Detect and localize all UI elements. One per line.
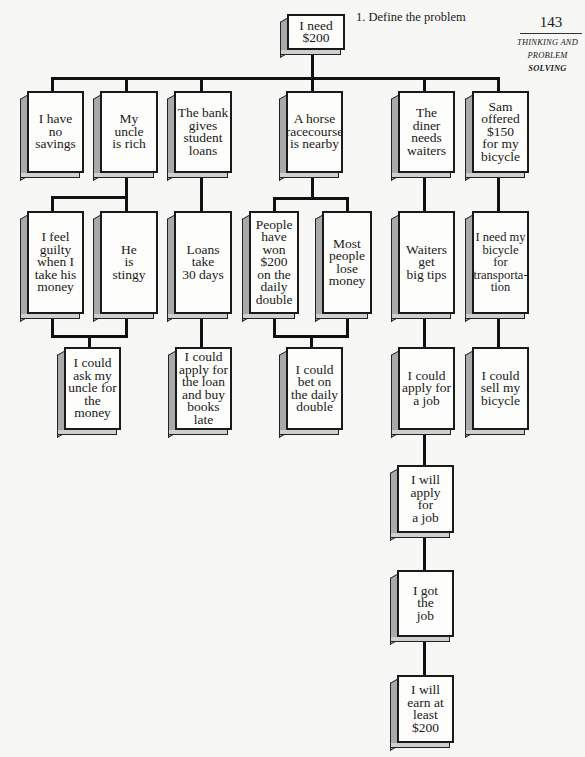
root-node: I need $200 (287, 14, 345, 50)
node-could-apply-job: I could apply for a job (398, 347, 455, 430)
node-bank-student-loans: The bank gives student loans (174, 91, 232, 173)
connector-row1-bar (51, 77, 500, 80)
problem-solving-tree-diagram: 1. Define the problem 143 THINKING AND P… (0, 0, 585, 757)
node-bet-daily-double: I could bet on the daily double (286, 347, 343, 430)
node-most-people-lose: Most people lose money (322, 211, 372, 314)
node-horse-racecourse: A horse racecourse is nearby (286, 91, 343, 173)
root-node-label: I need $200 (290, 20, 342, 45)
node-will-apply-job: I will apply for a job (397, 465, 454, 533)
connector-drop-col6 (497, 77, 500, 91)
connector-horse-drop1 (273, 197, 276, 211)
connector-bank-down (200, 173, 203, 211)
connector-uncle-drop2 (125, 196, 128, 211)
step-caption: 1. Define the problem (356, 10, 466, 25)
node-sam-offered-150: Sam offered $150 for my bicycle (472, 91, 529, 173)
connector-uncle-drop1 (51, 196, 54, 211)
running-head-line1: THINKING AND (510, 36, 585, 49)
running-head: THINKING AND PROBLEM SOLVING (510, 36, 585, 75)
node-feel-guilty: I feel guilty when I take his money (27, 211, 84, 314)
running-head-line2: PROBLEM SOLVING (510, 49, 585, 75)
node-waiters-big-tips: Waiters get big tips (398, 211, 455, 314)
node-no-savings: I have no savings (27, 91, 84, 173)
connector-drop-col2 (125, 77, 128, 91)
connector-chain-2 (423, 533, 426, 570)
node-loans-30-days: Loans take 30 days (174, 211, 232, 314)
node-need-bicycle-transport: I need my bicycle for transporta- tion (472, 211, 529, 314)
connector-chain-3 (423, 637, 426, 675)
connector-drop-col3 (200, 77, 203, 91)
connector-horse-bar (273, 197, 349, 200)
connector-horse-drop2 (346, 197, 349, 211)
node-people-have-won: People have won $200 on the daily double (249, 211, 299, 314)
node-he-is-stingy: He is stingy (100, 211, 158, 314)
connector-diner-down (423, 173, 426, 211)
connector-uncle-result (88, 335, 91, 347)
node-got-the-job: I got the job (397, 570, 454, 637)
page-number: 143 (520, 14, 582, 34)
connector-horse-result (310, 335, 313, 347)
node-apply-loan-books-late: I could apply for the loan and buy books… (175, 347, 232, 430)
node-uncle-is-rich: My uncle is rich (100, 91, 158, 173)
connector-uncle-bar (51, 196, 128, 199)
node-ask-uncle: I could ask my uncle for the money (64, 347, 121, 430)
connector-drop-col1 (51, 77, 54, 91)
node-earn-at-least-200: I will earn at least $200 (397, 675, 454, 743)
node-diner-needs-waiters: The diner needs waiters (398, 91, 455, 173)
connector-drop-col5 (423, 77, 426, 91)
connector-drop-col4 (311, 77, 314, 91)
node-sell-bicycle: I could sell my bicycle (472, 347, 529, 430)
connector-chain-1 (423, 430, 426, 465)
connector-bicycle-down (497, 173, 500, 211)
